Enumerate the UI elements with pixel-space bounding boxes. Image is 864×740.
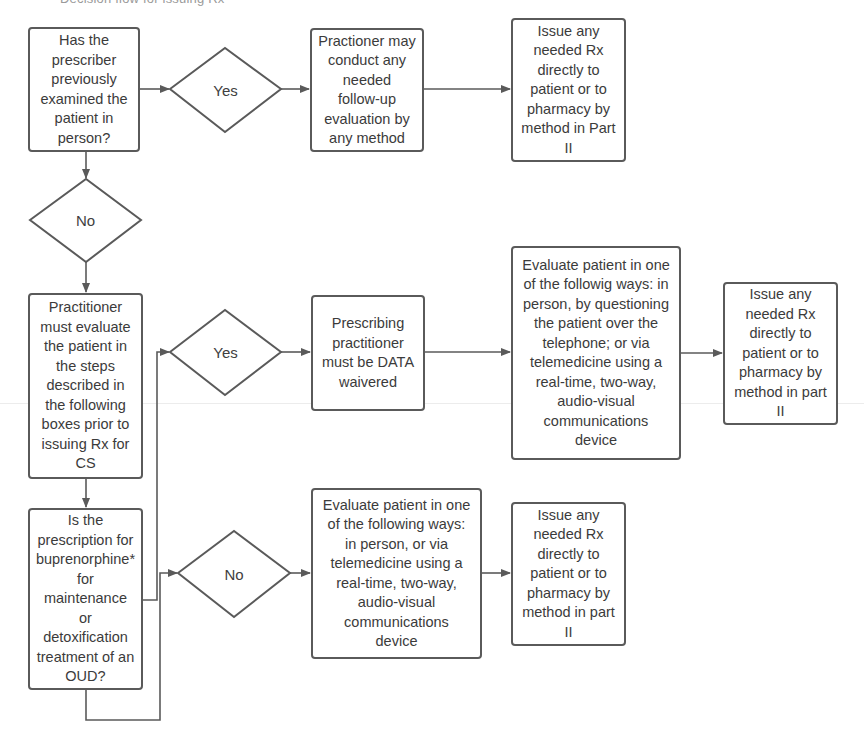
flowchart-canvas: Decision flow for issuing Rx xyxy=(0,0,864,740)
data-waivered-box: Prescribing practitioner must be DATA wa… xyxy=(311,295,425,411)
question-prior-exam-box: Has the prescriber previously examined t… xyxy=(28,27,140,152)
issue-rx-top-box: Issue any needed Rx directly to patient … xyxy=(511,18,626,162)
issue-rx-mid-box: Issue any needed Rx directly to patient … xyxy=(723,282,838,425)
followup-evaluation-box: Practioner may conduct any needed follow… xyxy=(310,28,424,152)
issue-rx-bottom-box: Issue any needed Rx directly to patient … xyxy=(511,502,626,646)
decision-label-top-yes: Yes xyxy=(170,48,281,132)
decision-label-bottom-no: No xyxy=(178,531,290,617)
decision-label-no: No xyxy=(30,179,141,262)
evaluate-video-telemedicine-box: Evaluate patient in one of the following… xyxy=(311,488,482,659)
must-evaluate-box: Practitioner must evaluate the patient i… xyxy=(28,293,143,479)
evaluate-phone-telemedicine-box: Evaluate patient in one of the followig … xyxy=(511,246,681,460)
decision-label-mid-yes: Yes xyxy=(170,310,281,395)
question-buprenorphine-box: Is the prescription for buprenorphine* f… xyxy=(28,508,143,690)
